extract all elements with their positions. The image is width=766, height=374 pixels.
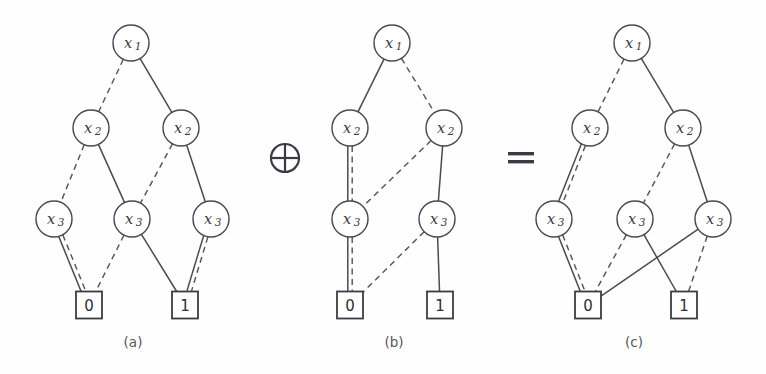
node-variable-label: x [385, 35, 393, 51]
decision-node[interactable]: x2 [665, 110, 701, 146]
node-variable-subscript: 2 [447, 125, 455, 137]
node-variable-label: x [628, 211, 636, 227]
decision-node[interactable]: x3 [36, 201, 72, 237]
equals-bar-2 [508, 160, 534, 163]
terminal-node[interactable]: 0 [337, 292, 363, 319]
edge-dashed [689, 236, 708, 291]
equals-operator [508, 152, 534, 163]
node-variable-subscript: 2 [593, 125, 601, 137]
edge-dashed [563, 235, 585, 291]
node-variable-label: x [430, 211, 438, 227]
terminal-value-label: 0 [84, 297, 94, 315]
equals-bar-1 [508, 152, 534, 155]
decision-node[interactable]: x3 [332, 201, 368, 237]
edge-solid [187, 236, 204, 291]
edge-dashed [99, 59, 124, 111]
captions-layer: (a)(b)(c) [124, 334, 643, 350]
edge-solid [438, 237, 440, 292]
node-variable-label: x [124, 35, 132, 51]
decision-node[interactable]: x2 [572, 110, 608, 146]
node-variable-label: x [437, 120, 445, 136]
node-variable-label: x [125, 211, 133, 227]
node-variable-subscript: 1 [636, 40, 643, 52]
edge-dashed [363, 232, 424, 292]
terminal-value-label: 1 [679, 297, 689, 315]
node-variable-subscript: 1 [396, 40, 403, 52]
node-variable-label: x [625, 35, 633, 51]
node-variable-subscript: 3 [215, 216, 222, 228]
edge-solid [689, 145, 708, 202]
decision-node[interactable]: x3 [114, 201, 150, 237]
terminals-layer: 010101 [76, 292, 697, 319]
node-variable-subscript: 2 [94, 125, 102, 137]
decision-node[interactable]: x1 [113, 25, 149, 61]
node-variable-label: x [343, 120, 351, 136]
terminal-value-label: 0 [345, 297, 355, 315]
decision-node[interactable]: x3 [617, 201, 653, 237]
operators-layer [271, 144, 534, 172]
node-variable-label: x [706, 211, 714, 227]
node-variable-subscript: 3 [354, 216, 361, 228]
diagram-caption: (a) [124, 334, 143, 350]
edge-dashed [191, 237, 208, 292]
edge-solid [641, 58, 673, 112]
node-variable-subscript: 3 [136, 216, 143, 228]
decision-node[interactable]: x1 [374, 25, 410, 61]
node-variable-subscript: 1 [135, 40, 142, 52]
terminal-node[interactable]: 0 [575, 292, 601, 319]
diagram-caption: (b) [384, 334, 403, 350]
diagram-caption: (c) [625, 334, 643, 350]
edge-solid [141, 234, 176, 291]
edge-dashed [63, 235, 86, 291]
node-variable-subscript: 3 [717, 216, 724, 228]
edge-solid [559, 237, 581, 293]
xor-operator [271, 144, 299, 172]
node-variable-subscript: 3 [639, 216, 646, 228]
decision-node[interactable]: x2 [73, 110, 109, 146]
edge-solid [187, 145, 206, 202]
decision-node[interactable]: x2 [426, 110, 462, 146]
edge-solid [601, 229, 698, 296]
node-variable-label: x [47, 211, 55, 227]
terminal-node[interactable]: 0 [76, 292, 102, 319]
decision-node[interactable]: x3 [536, 201, 572, 237]
node-variable-subscript: 3 [58, 216, 65, 228]
terminal-value-label: 1 [435, 297, 445, 315]
node-variable-label: x [343, 211, 351, 227]
node-variable-label: x [676, 120, 684, 136]
terminal-node[interactable]: 1 [671, 292, 697, 319]
edge-dashed [96, 235, 124, 291]
edge-solid [559, 144, 582, 202]
edge-dashed [598, 59, 624, 112]
edge-solid [358, 59, 384, 112]
decision-node[interactable]: x3 [193, 201, 229, 237]
edge-solid [438, 146, 442, 201]
nodes-layer: x1x2x2x3x3x3x1x2x2x3x3x1x2x2x3x3x3 [36, 25, 731, 237]
edge-dashed [363, 141, 431, 207]
edge-dashed [643, 144, 674, 203]
decision-node[interactable]: x1 [614, 25, 650, 61]
node-variable-subscript: 2 [184, 125, 192, 137]
decision-node[interactable]: x2 [163, 110, 199, 146]
terminal-value-label: 1 [180, 297, 190, 315]
edge-dashed [61, 145, 84, 203]
edge-dashed [563, 146, 586, 204]
decision-node[interactable]: x3 [419, 201, 455, 237]
node-variable-label: x [583, 120, 591, 136]
node-variable-label: x [84, 120, 92, 136]
node-variable-subscript: 2 [686, 125, 694, 137]
edge-solid [59, 237, 82, 293]
decision-node[interactable]: x3 [695, 201, 731, 237]
node-variable-subscript: 3 [558, 216, 565, 228]
node-variable-label: x [547, 211, 555, 227]
bdd-figure: x1x2x2x3x3x3x1x2x2x3x3x1x2x2x3x3x3 01010… [0, 0, 766, 374]
node-variable-subscript: 2 [353, 125, 361, 137]
terminal-node[interactable]: 1 [427, 292, 453, 319]
terminal-node[interactable]: 1 [172, 292, 198, 319]
edge-dashed [595, 235, 626, 292]
node-variable-subscript: 3 [441, 216, 448, 228]
terminal-value-label: 0 [583, 297, 593, 315]
edges-layer [59, 58, 708, 296]
edge-dashed [141, 144, 173, 203]
decision-node[interactable]: x2 [332, 110, 368, 146]
